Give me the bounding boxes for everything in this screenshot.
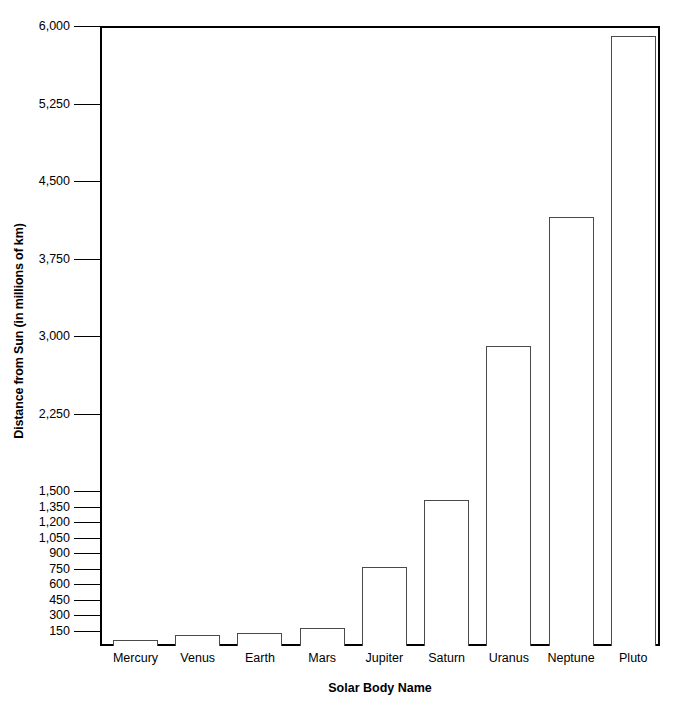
y-axis-tick-label: 150 [49, 624, 70, 637]
y-axis-tick-mark [74, 259, 102, 260]
y-axis-tick-mark [74, 336, 102, 337]
y-axis-tick-label: 5,250 [39, 97, 70, 110]
y-axis-tick-mark [74, 553, 102, 554]
bar-earth [237, 633, 282, 646]
y-axis-tick-mark [74, 414, 102, 415]
x-axis-title: Solar Body Name [100, 681, 660, 695]
y-axis-tick-label: 1,500 [39, 485, 70, 498]
x-axis-label-pluto: Pluto [588, 651, 674, 666]
y-axis-tick-mark [74, 181, 102, 182]
y-axis-tick-mark [74, 615, 102, 616]
y-axis-tick-mark [74, 584, 102, 585]
y-axis-tick-label: 1,050 [39, 531, 70, 544]
bars-layer [100, 26, 660, 646]
y-axis-tick-label: 300 [49, 609, 70, 622]
y-axis-tick-label: 750 [49, 562, 70, 575]
y-axis-tick-mark [74, 522, 102, 523]
y-axis-tick-label: 4,500 [39, 175, 70, 188]
y-axis-tick-mark [74, 600, 102, 601]
y-axis-tick-mark [74, 631, 102, 632]
y-axis-tick-mark [74, 538, 102, 539]
bar-jupiter [362, 567, 407, 646]
y-axis-ticks: 1503004506007509001,0501,2001,3501,5002,… [0, 0, 102, 705]
y-axis-tick-mark [74, 569, 102, 570]
y-axis-tick-label: 2,250 [39, 407, 70, 420]
bar-neptune [549, 217, 594, 646]
y-axis-tick-label: 450 [49, 593, 70, 606]
bar-pluto [611, 36, 656, 646]
y-axis-tick-label: 6,000 [39, 20, 70, 33]
y-axis-tick-mark [74, 507, 102, 508]
bar-chart: Distance from Sun (in millions of km) 15… [0, 0, 674, 705]
y-axis-tick-mark [74, 26, 102, 27]
bar-mars [300, 628, 345, 646]
bar-saturn [424, 500, 469, 646]
y-axis-tick-label: 600 [49, 578, 70, 591]
bar-mercury [113, 640, 158, 646]
y-axis-tick-mark [74, 104, 102, 105]
y-axis-tick-mark [74, 491, 102, 492]
x-axis-tick-labels: MercuryVenusEarthMarsJupiterSaturnUranus… [100, 651, 660, 671]
y-axis-tick-label: 3,000 [39, 330, 70, 343]
y-axis-tick-label: 1,200 [39, 516, 70, 529]
y-axis-tick-label: 3,750 [39, 252, 70, 265]
bar-venus [175, 635, 220, 646]
y-axis-tick-label: 900 [49, 547, 70, 560]
bar-uranus [486, 346, 531, 646]
y-axis-tick-label: 1,350 [39, 500, 70, 513]
